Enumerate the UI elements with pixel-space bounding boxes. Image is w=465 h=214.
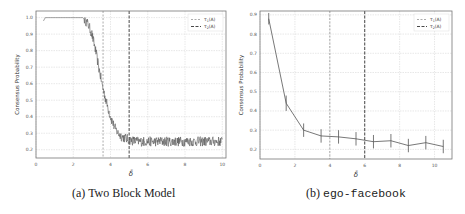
x-tick-label: 6 — [146, 162, 149, 167]
caption-b: (b) ego-facebook — [306, 186, 406, 201]
x-tick-label: 8 — [398, 163, 401, 168]
x-tick-label: 2 — [72, 162, 75, 167]
y-tick-label: 0.6 — [250, 70, 257, 75]
caption-b-prefix: (b) — [306, 186, 320, 200]
y-axis-label: Consensus Probability — [14, 54, 21, 115]
chart-panel-a: 02468100.20.30.40.50.60.70.80.91.0δ̄Cons… — [0, 0, 235, 185]
x-tick-label: 0 — [259, 163, 262, 168]
x-axis-label: δ̄ — [354, 170, 359, 179]
x-tick-label: 2 — [293, 163, 296, 168]
y-tick-label: 0.4 — [26, 114, 33, 119]
y-tick-label: 0.3 — [26, 131, 33, 136]
x-tick-label: 4 — [328, 163, 331, 168]
chart-panel-b: 02468100.20.30.40.50.60.70.80.9δ̄Consens… — [235, 0, 465, 185]
chart-a-plot: 02468100.20.30.40.50.60.70.80.91.0δ̄Cons… — [0, 0, 235, 185]
caption-a-prefix: (a) — [72, 186, 85, 200]
caption-a-text: Two Block Model — [88, 186, 175, 200]
x-tick-label: 4 — [109, 162, 112, 167]
y-tick-label: 1.0 — [26, 15, 33, 20]
y-tick-label: 0.7 — [250, 51, 257, 56]
chart-b-plot: 02468100.20.30.40.50.60.70.80.9δ̄Consens… — [235, 0, 465, 185]
y-axis-label: Consensus Probability — [238, 54, 245, 115]
y-tick-label: 0.9 — [250, 12, 257, 17]
x-tick-label: 10 — [219, 162, 225, 167]
x-axis-label: δ̄ — [129, 169, 134, 178]
y-tick-label: 0.4 — [250, 108, 257, 113]
plot-frame — [36, 11, 226, 158]
y-tick-label: 0.2 — [250, 147, 257, 152]
x-tick-label: 0 — [35, 162, 38, 167]
y-tick-label: 0.2 — [26, 147, 33, 152]
caption-b-text: ego-facebook — [323, 187, 406, 200]
x-tick-label: 8 — [184, 162, 187, 167]
y-tick-label: 0.7 — [26, 65, 33, 70]
y-tick-label: 0.8 — [250, 32, 257, 37]
y-tick-label: 0.6 — [26, 81, 33, 86]
data-line — [43, 18, 222, 147]
y-tick-label: 0.9 — [26, 32, 33, 37]
x-tick-label: 10 — [432, 163, 438, 168]
y-tick-label: 0.8 — [26, 48, 33, 53]
y-tick-label: 0.5 — [250, 89, 257, 94]
x-tick-label: 6 — [363, 163, 366, 168]
caption-a: (a) Two Block Model — [72, 186, 175, 201]
y-tick-label: 0.5 — [26, 98, 33, 103]
y-tick-label: 0.3 — [250, 128, 257, 133]
